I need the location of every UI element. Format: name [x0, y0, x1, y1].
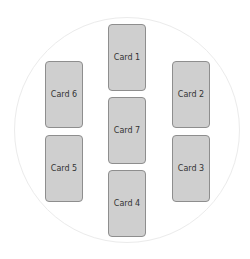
card-label: Card 2: [178, 90, 204, 99]
card-1[interactable]: Card 1: [108, 24, 146, 91]
card-label: Card 6: [51, 90, 77, 99]
card-2[interactable]: Card 2: [172, 61, 210, 128]
card-label: Card 1: [114, 53, 140, 62]
card-label: Card 7: [114, 126, 140, 135]
card-label: Card 3: [178, 164, 204, 173]
card-label: Card 4: [114, 199, 140, 208]
card-7[interactable]: Card 7: [108, 97, 146, 164]
card-5[interactable]: Card 5: [45, 135, 83, 202]
card-label: Card 5: [51, 164, 77, 173]
card-4[interactable]: Card 4: [108, 170, 146, 237]
card-3[interactable]: Card 3: [172, 135, 210, 202]
card-6[interactable]: Card 6: [45, 61, 83, 128]
